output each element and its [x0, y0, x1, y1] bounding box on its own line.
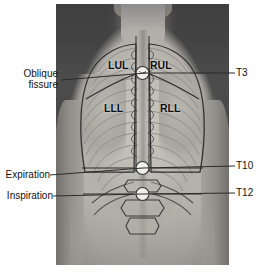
label-rul: RUL	[150, 59, 172, 71]
leader-lines	[0, 0, 259, 275]
label-t3: T3	[236, 67, 248, 78]
label-oblique-fissure-line2: fissure	[0, 79, 58, 90]
label-rll: RLL	[160, 102, 180, 114]
leader-oblique-fissure	[62, 73, 146, 80]
label-oblique-fissure: Oblique fissure	[0, 68, 58, 90]
leader-inspiration	[53, 194, 143, 196]
label-t10: T10	[236, 160, 253, 171]
label-lll: LLL	[104, 102, 123, 114]
leader-t12	[143, 193, 235, 194]
label-lul: LUL	[108, 59, 128, 71]
leader-t10	[143, 166, 235, 168]
label-expiration: Expiration	[0, 169, 50, 180]
anatomy-figure: LUL RUL LLL RLL Oblique fissure Expirati…	[0, 0, 259, 275]
leader-expiration	[50, 168, 143, 175]
label-oblique-fissure-line1: Oblique	[0, 68, 58, 79]
label-t12: T12	[236, 187, 253, 198]
label-inspiration: Inspiration	[0, 190, 53, 201]
